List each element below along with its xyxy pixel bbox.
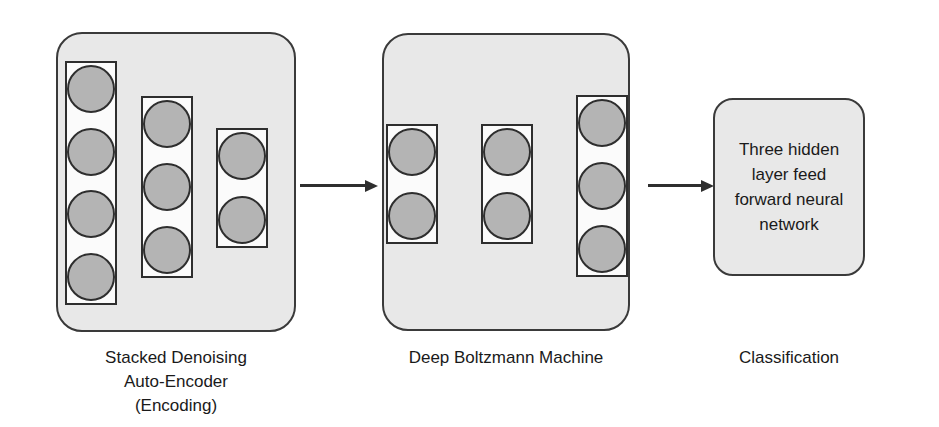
neuron bbox=[143, 226, 191, 274]
stage-deep-boltzmann-machine bbox=[382, 33, 630, 331]
arrow-head-icon bbox=[365, 180, 378, 192]
arrow-sdae-to-dbm bbox=[300, 180, 378, 192]
pipeline-diagram: Stacked Denoising Auto-Encoder (Encoding… bbox=[0, 0, 939, 427]
neuron bbox=[218, 196, 266, 244]
layer-dbm-2 bbox=[481, 124, 533, 244]
neuron bbox=[578, 162, 626, 210]
neuron bbox=[578, 225, 626, 273]
classification-body-text: Three hidden layer feed forward neural n… bbox=[715, 137, 863, 237]
neuron bbox=[67, 253, 115, 301]
neuron bbox=[143, 163, 191, 211]
neuron bbox=[578, 99, 626, 147]
neuron bbox=[67, 65, 115, 113]
layer-dbm-1 bbox=[386, 124, 438, 244]
arrow-shaft bbox=[300, 184, 365, 187]
caption-classification: Classification bbox=[699, 346, 879, 370]
neuron bbox=[218, 132, 266, 180]
neuron bbox=[143, 100, 191, 148]
caption-deep-boltzmann-machine: Deep Boltzmann Machine bbox=[366, 346, 646, 370]
arrow-dbm-to-classification bbox=[648, 180, 714, 192]
layer-dbm-3 bbox=[576, 95, 628, 277]
layer-sdae-1 bbox=[65, 61, 117, 305]
neuron bbox=[483, 128, 531, 176]
neuron bbox=[67, 128, 115, 176]
stage-stacked-denoising-autoencoder bbox=[56, 32, 296, 332]
layer-sdae-3 bbox=[216, 128, 268, 248]
neuron bbox=[388, 192, 436, 240]
caption-stacked-denoising-autoencoder: Stacked Denoising Auto-Encoder (Encoding… bbox=[36, 346, 316, 418]
stage-classification: Three hidden layer feed forward neural n… bbox=[713, 98, 865, 276]
neuron bbox=[67, 190, 115, 238]
neuron bbox=[483, 192, 531, 240]
arrow-shaft bbox=[648, 184, 701, 187]
layer-sdae-2 bbox=[141, 96, 193, 278]
neuron bbox=[388, 128, 436, 176]
